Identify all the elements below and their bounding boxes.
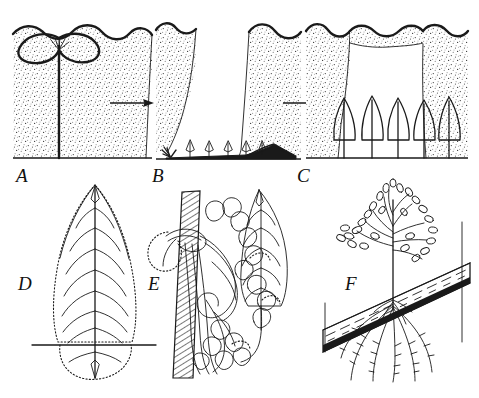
panel-e-group: E [147,190,287,378]
figure-canvas: A [0,0,479,398]
panel-label-e: E [147,273,160,294]
seedling-item [186,140,194,158]
panel-a-group: A [13,25,152,186]
panel-f-group: F [323,179,470,382]
panel-d-group: D [17,185,156,379]
canopy-stipple-a [13,25,152,158]
panel-label-d: D [17,273,32,294]
leaf-basal-veins-right-d [95,352,121,362]
canopy-stipple-c-right [423,25,468,158]
canopy-gap-edge-b-right [238,32,249,158]
leaf-margin-solid-d [60,185,95,258]
botanical-figure: A [0,0,479,398]
leaf-basal-veins-d [69,352,95,362]
looping-stems-e [197,236,237,372]
sapling-item [362,96,383,158]
ghost-leaflet-e [148,232,182,271]
sapling-item [388,98,409,158]
canopy-stipple-b-right [249,24,301,158]
panel-label-a: A [14,165,28,186]
shrub-leaves-f [336,179,438,263]
panel-label-b: B [152,165,164,186]
panel-label-f: F [344,273,357,294]
frond-apex-e [256,190,263,206]
panel-label-c: C [297,165,310,186]
leaf-margin-solid-right-d [95,185,129,259]
panel-b-group: B [152,23,301,186]
seedling-item [205,141,213,158]
panel-c-group: C [297,24,468,186]
frond-stalk-e [241,306,262,362]
leaflet-dotted-margins-e [232,253,280,350]
ghost-leaflet-vein-e [163,239,176,266]
